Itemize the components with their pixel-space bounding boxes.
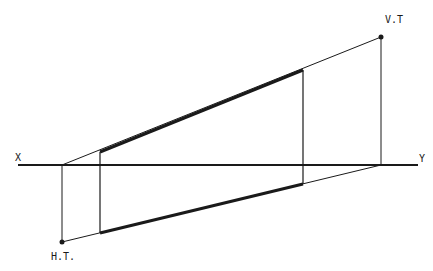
vt-point <box>379 35 384 40</box>
plan-line-true <box>100 184 303 233</box>
projection-diagram <box>0 0 433 271</box>
elevation-line-true <box>100 70 303 152</box>
elevation-line-extended <box>62 37 381 165</box>
x-label: X <box>15 153 21 163</box>
ht-label: H.T. <box>51 252 75 262</box>
y-label: Y <box>419 154 425 164</box>
vt-label: V.T <box>385 15 403 25</box>
ht-point <box>60 240 65 245</box>
